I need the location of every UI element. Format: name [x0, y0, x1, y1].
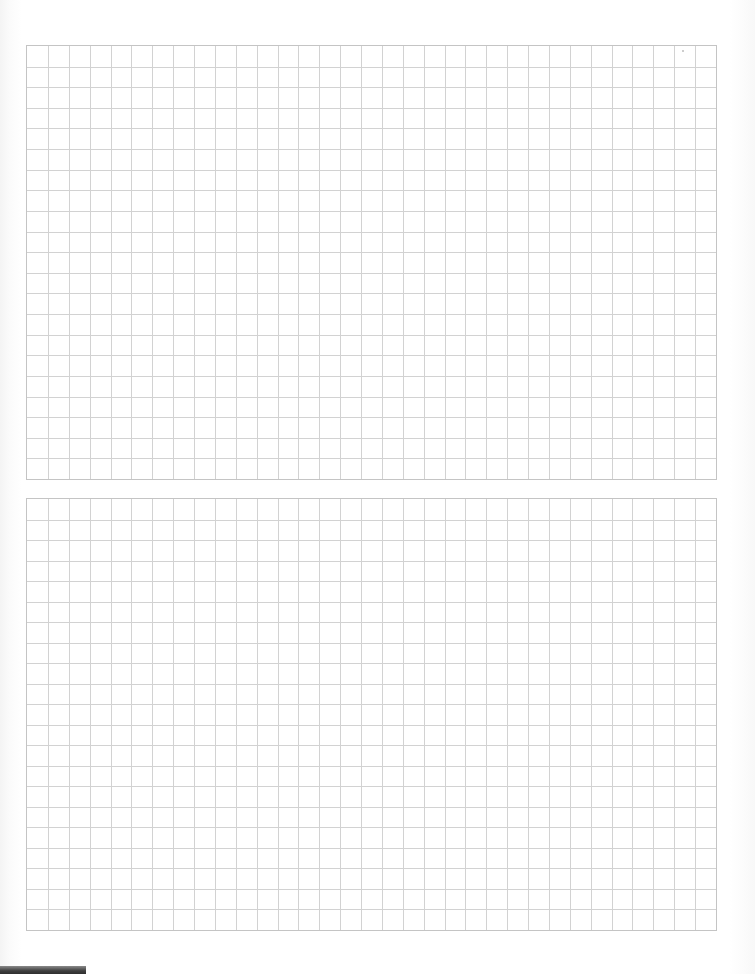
grid-lines-bottom — [27, 499, 716, 930]
grid-lines-svg — [27, 46, 716, 479]
scan-speck — [682, 50, 684, 52]
graph-grid-top — [26, 45, 717, 480]
graph-paper-page — [0, 0, 755, 974]
grid-lines-svg — [27, 499, 716, 930]
grid-lines-top — [27, 46, 716, 479]
scan-edge-bar — [0, 966, 86, 974]
graph-grid-bottom — [26, 498, 717, 931]
